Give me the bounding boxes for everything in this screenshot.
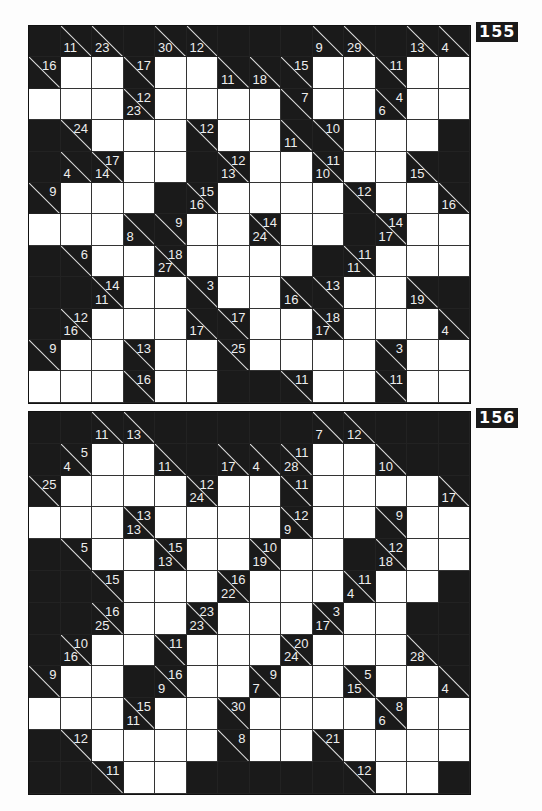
entry-cell[interactable] xyxy=(344,635,376,667)
entry-cell[interactable] xyxy=(124,120,156,151)
entry-cell[interactable] xyxy=(313,698,345,730)
entry-cell[interactable] xyxy=(155,603,187,635)
entry-cell[interactable] xyxy=(29,371,61,402)
entry-cell[interactable] xyxy=(61,507,93,539)
entry-cell[interactable] xyxy=(281,730,313,762)
entry-cell[interactable] xyxy=(313,571,345,603)
entry-cell[interactable] xyxy=(187,666,219,698)
entry-cell[interactable] xyxy=(376,152,408,183)
entry-cell[interactable] xyxy=(187,371,219,402)
entry-cell[interactable] xyxy=(218,507,250,539)
entry-cell[interactable] xyxy=(29,214,61,245)
entry-cell[interactable] xyxy=(218,603,250,635)
entry-cell[interactable] xyxy=(124,183,156,214)
entry-cell[interactable] xyxy=(124,152,156,183)
entry-cell[interactable] xyxy=(344,120,376,151)
entry-cell[interactable] xyxy=(439,507,471,539)
entry-cell[interactable] xyxy=(124,730,156,762)
entry-cell[interactable] xyxy=(61,183,93,214)
entry-cell[interactable] xyxy=(250,476,282,508)
entry-cell[interactable] xyxy=(407,246,439,277)
entry-cell[interactable] xyxy=(92,57,124,88)
entry-cell[interactable] xyxy=(92,371,124,402)
entry-cell[interactable] xyxy=(250,340,282,371)
entry-cell[interactable] xyxy=(250,698,282,730)
entry-cell[interactable] xyxy=(124,246,156,277)
entry-cell[interactable] xyxy=(281,214,313,245)
entry-cell[interactable] xyxy=(313,89,345,120)
entry-cell[interactable] xyxy=(313,444,345,476)
entry-cell[interactable] xyxy=(155,476,187,508)
entry-cell[interactable] xyxy=(439,371,471,402)
entry-cell[interactable] xyxy=(61,476,93,508)
entry-cell[interactable] xyxy=(61,340,93,371)
entry-cell[interactable] xyxy=(187,730,219,762)
entry-cell[interactable] xyxy=(376,603,408,635)
entry-cell[interactable] xyxy=(344,57,376,88)
entry-cell[interactable] xyxy=(407,762,439,794)
entry-cell[interactable] xyxy=(344,89,376,120)
entry-cell[interactable] xyxy=(92,666,124,698)
entry-cell[interactable] xyxy=(344,340,376,371)
entry-cell[interactable] xyxy=(407,120,439,151)
entry-cell[interactable] xyxy=(344,476,376,508)
entry-cell[interactable] xyxy=(155,57,187,88)
entry-cell[interactable] xyxy=(376,246,408,277)
entry-cell[interactable] xyxy=(92,214,124,245)
entry-cell[interactable] xyxy=(92,340,124,371)
entry-cell[interactable] xyxy=(61,89,93,120)
entry-cell[interactable] xyxy=(281,340,313,371)
entry-cell[interactable] xyxy=(155,571,187,603)
entry-cell[interactable] xyxy=(407,539,439,571)
entry-cell[interactable] xyxy=(281,152,313,183)
entry-cell[interactable] xyxy=(250,603,282,635)
entry-cell[interactable] xyxy=(92,246,124,277)
entry-cell[interactable] xyxy=(29,698,61,730)
entry-cell[interactable] xyxy=(187,246,219,277)
entry-cell[interactable] xyxy=(407,340,439,371)
entry-cell[interactable] xyxy=(407,698,439,730)
entry-cell[interactable] xyxy=(439,340,471,371)
entry-cell[interactable] xyxy=(344,444,376,476)
entry-cell[interactable] xyxy=(29,89,61,120)
entry-cell[interactable] xyxy=(376,277,408,308)
entry-cell[interactable] xyxy=(344,152,376,183)
entry-cell[interactable] xyxy=(313,340,345,371)
entry-cell[interactable] xyxy=(155,371,187,402)
entry-cell[interactable] xyxy=(439,698,471,730)
entry-cell[interactable] xyxy=(92,444,124,476)
entry-cell[interactable] xyxy=(92,507,124,539)
entry-cell[interactable] xyxy=(155,698,187,730)
entry-cell[interactable] xyxy=(376,309,408,340)
entry-cell[interactable] xyxy=(92,120,124,151)
entry-cell[interactable] xyxy=(155,309,187,340)
entry-cell[interactable] xyxy=(61,666,93,698)
entry-cell[interactable] xyxy=(439,539,471,571)
entry-cell[interactable] xyxy=(281,698,313,730)
entry-cell[interactable] xyxy=(250,309,282,340)
entry-cell[interactable] xyxy=(250,120,282,151)
entry-cell[interactable] xyxy=(250,730,282,762)
entry-cell[interactable] xyxy=(250,571,282,603)
entry-cell[interactable] xyxy=(313,183,345,214)
entry-cell[interactable] xyxy=(92,89,124,120)
entry-cell[interactable] xyxy=(155,340,187,371)
entry-cell[interactable] xyxy=(250,89,282,120)
entry-cell[interactable] xyxy=(281,603,313,635)
entry-cell[interactable] xyxy=(281,309,313,340)
entry-cell[interactable] xyxy=(155,89,187,120)
entry-cell[interactable] xyxy=(439,730,471,762)
entry-cell[interactable] xyxy=(61,57,93,88)
entry-cell[interactable] xyxy=(407,214,439,245)
entry-cell[interactable] xyxy=(187,507,219,539)
entry-cell[interactable] xyxy=(187,571,219,603)
entry-cell[interactable] xyxy=(376,762,408,794)
entry-cell[interactable] xyxy=(218,89,250,120)
entry-cell[interactable] xyxy=(61,371,93,402)
entry-cell[interactable] xyxy=(124,309,156,340)
entry-cell[interactable] xyxy=(250,277,282,308)
entry-cell[interactable] xyxy=(376,730,408,762)
entry-cell[interactable] xyxy=(281,571,313,603)
entry-cell[interactable] xyxy=(92,635,124,667)
entry-cell[interactable] xyxy=(250,507,282,539)
